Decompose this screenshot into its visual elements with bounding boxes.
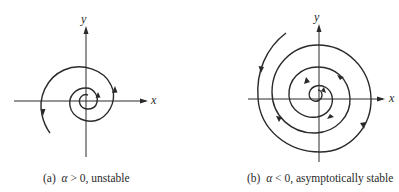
direction-arrow-icon [259,66,265,73]
y-axis-arrow-icon [317,24,322,32]
caption-text: < 0, asymptotically stable [272,172,393,184]
phase-portrait-a [0,0,200,192]
caption-a: (a) α > 0, unstable [43,172,130,185]
x-axis-arrow-icon [377,97,385,102]
direction-arrow-icon [327,114,334,119]
spiral-trajectory-a [41,67,114,133]
caption-b: (b) α < 0, asymptotically stable [247,172,393,185]
x-axis-arrow-icon [140,99,148,104]
direction-arrow-icon [276,116,282,122]
caption-text: > 0, unstable [68,172,130,184]
y-axis-label: y [314,11,319,23]
panel-b: y x (b) α < 0, asymptotically stable [200,0,399,192]
caption-label: (a) [43,172,56,184]
y-axis-arrow-icon [84,26,89,34]
direction-arrow-icon [304,77,310,84]
x-axis-label: x [151,94,156,106]
panel-a: y x (a) α > 0, unstable [0,0,200,192]
spiral-trajectory-b [258,33,371,152]
x-axis-label: x [389,92,394,104]
phase-portrait-b [200,0,399,192]
caption-label: (b) [247,172,260,184]
y-axis-label: y [81,13,86,25]
